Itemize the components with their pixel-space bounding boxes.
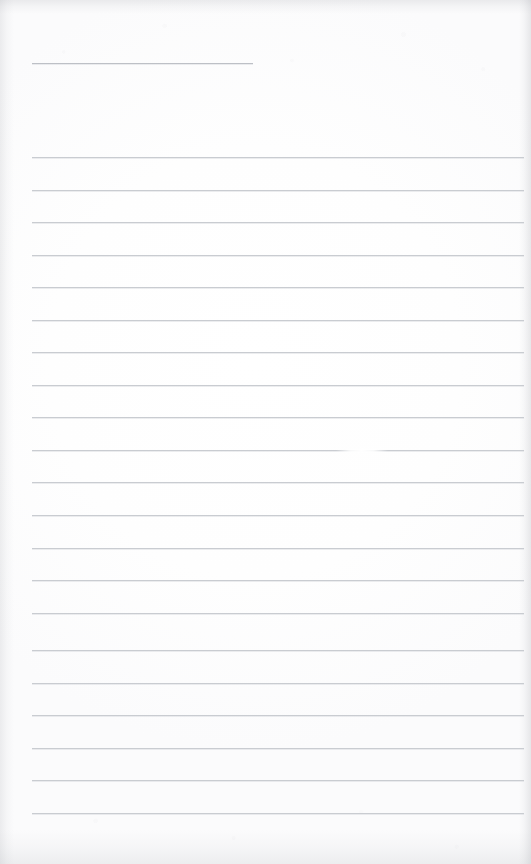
rule-line xyxy=(32,222,524,223)
rule-line xyxy=(32,650,524,651)
rule-line xyxy=(32,780,524,781)
rule-line xyxy=(32,482,524,483)
rule-line xyxy=(32,515,524,516)
rule-line xyxy=(32,417,524,418)
rule-line xyxy=(32,255,524,256)
rule-line xyxy=(32,450,524,451)
rule-line xyxy=(32,287,524,288)
rule-line xyxy=(32,352,524,353)
rule-line xyxy=(32,190,524,191)
rule-line xyxy=(32,715,524,716)
paper-background xyxy=(0,0,531,864)
rule-line xyxy=(32,157,524,158)
rule-line xyxy=(32,385,524,386)
rule-line xyxy=(32,748,524,749)
rule-line xyxy=(32,813,524,814)
rule-line xyxy=(32,683,524,684)
header-rule xyxy=(32,63,253,64)
rule-line xyxy=(32,613,524,614)
rule-line xyxy=(32,548,524,549)
scanned-page xyxy=(0,0,531,864)
rule-line xyxy=(32,580,524,581)
rule-line xyxy=(32,320,524,321)
